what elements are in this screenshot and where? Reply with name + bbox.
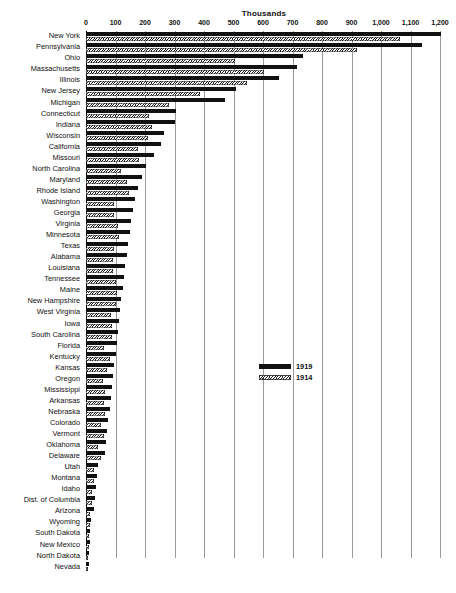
bar-1919 xyxy=(86,363,114,367)
bar-1914 xyxy=(86,368,107,372)
legend-swatch-1914 xyxy=(259,375,291,380)
category-label-mississippi: Mississippi xyxy=(0,386,80,394)
bar-1919 xyxy=(86,253,127,257)
bar-row xyxy=(86,484,440,495)
bar-1914 xyxy=(86,202,114,206)
category-label-vermont: Vermont xyxy=(0,430,80,438)
bar-row xyxy=(86,164,440,175)
bar-row xyxy=(86,153,440,164)
bar-1914 xyxy=(86,445,98,449)
bar-1919 xyxy=(86,308,120,312)
category-label-north-dakota: North Dakota xyxy=(0,552,80,560)
bar-1919 xyxy=(86,219,131,223)
axis-title: Thousands xyxy=(0,9,456,18)
bar-row xyxy=(86,274,440,285)
category-label-new-hampshire: New Hampshire xyxy=(0,297,80,305)
bar-1919 xyxy=(86,396,111,400)
bar-1919 xyxy=(86,496,95,500)
bar-row xyxy=(86,495,440,506)
bar-1914 xyxy=(86,423,101,427)
bar-row xyxy=(86,550,440,561)
bar-row xyxy=(86,230,440,241)
x-tick-label-1100: 1,100 xyxy=(402,19,420,26)
bar-row xyxy=(86,219,440,230)
bar-1919 xyxy=(86,275,124,279)
bar-1919 xyxy=(86,286,123,290)
category-label-kansas: Kansas xyxy=(0,364,80,372)
bar-1914 xyxy=(86,258,113,262)
bar-row xyxy=(86,473,440,484)
bar-row xyxy=(86,418,440,429)
category-label-washington: Washington xyxy=(0,198,80,206)
bar-1919 xyxy=(86,164,146,168)
bar-row xyxy=(86,451,440,462)
bar-1919 xyxy=(86,474,97,478)
bar-1914 xyxy=(86,169,121,173)
category-label-massachusetts: Massachusetts xyxy=(0,65,80,73)
bar-1919 xyxy=(86,507,94,511)
bar-1919 xyxy=(86,208,133,212)
bar-row xyxy=(86,429,440,440)
bar-row xyxy=(86,285,440,296)
bar-1914 xyxy=(86,401,104,405)
bar-row xyxy=(86,75,440,86)
bar-row xyxy=(86,119,440,130)
bar-1914 xyxy=(86,412,105,416)
bar-1914 xyxy=(86,434,104,438)
legend-label-1919: 1919 xyxy=(296,362,312,371)
bar-1914 xyxy=(86,501,92,505)
bar-row xyxy=(86,263,440,274)
legend-item-1914: 1914 xyxy=(259,373,321,382)
horizontal-bar-chart: Thousands 01002003004005006007008009001,… xyxy=(0,0,456,593)
x-tick-label-400: 400 xyxy=(198,19,210,26)
category-label-wyoming: Wyoming xyxy=(0,518,80,526)
bar-1914 xyxy=(86,291,117,295)
bar-row xyxy=(86,42,440,53)
bar-row xyxy=(86,561,440,572)
bar-1914 xyxy=(86,59,235,63)
category-label-pennsylvania: Pennsylvania xyxy=(0,43,80,51)
category-label-kentucky: Kentucky xyxy=(0,353,80,361)
chart-legend: 1919 1914 xyxy=(259,362,321,384)
category-label-nebraska: Nebraska xyxy=(0,408,80,416)
category-label-south-carolina: South Carolina xyxy=(0,331,80,339)
bar-1919 xyxy=(86,242,128,246)
plot-area: 01002003004005006007008009001,0001,1001,… xyxy=(86,31,440,558)
category-label-georgia: Georgia xyxy=(0,209,80,217)
bar-1914 xyxy=(86,81,247,85)
bar-1919 xyxy=(86,109,176,113)
category-label-texas: Texas xyxy=(0,242,80,250)
bar-row xyxy=(86,31,440,42)
category-label-idaho: Idaho xyxy=(0,485,80,493)
bar-1919 xyxy=(86,297,121,301)
category-label-north-carolina: North Carolina xyxy=(0,165,80,173)
category-label-rhode-island: Rhode Island xyxy=(0,187,80,195)
x-tick-label-1000: 1,000 xyxy=(372,19,390,26)
bar-row xyxy=(86,517,440,528)
bar-1914 xyxy=(86,191,129,195)
category-label-nevada: Nevada xyxy=(0,563,80,571)
bar-1914 xyxy=(86,534,89,538)
bar-row xyxy=(86,175,440,186)
x-tick-label-200: 200 xyxy=(139,19,151,26)
category-label-south-dakota: South Dakota xyxy=(0,529,80,537)
bar-row xyxy=(86,351,440,362)
legend-label-1914: 1914 xyxy=(296,373,312,382)
bar-1919 xyxy=(86,330,118,334)
bar-1919 xyxy=(86,374,113,378)
category-label-maryland: Maryland xyxy=(0,176,80,184)
bar-1919 xyxy=(86,153,154,157)
bar-row xyxy=(86,318,440,329)
bar-row xyxy=(86,528,440,539)
category-label-new-mexico: New Mexico xyxy=(0,541,80,549)
bar-row xyxy=(86,64,440,75)
bar-1914 xyxy=(86,545,89,549)
x-tick-label-1200: 1,200 xyxy=(431,19,449,26)
bar-1919 xyxy=(86,440,106,444)
bar-row xyxy=(86,86,440,97)
bar-1914 xyxy=(86,269,113,273)
bar-1919 xyxy=(86,120,175,124)
bar-row xyxy=(86,197,440,208)
bar-1919 xyxy=(86,98,225,102)
bar-1914 xyxy=(86,180,127,184)
